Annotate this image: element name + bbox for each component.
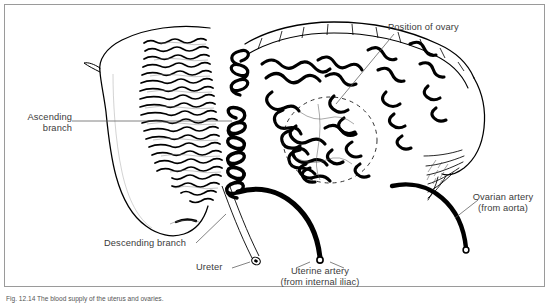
figure-frame bbox=[4, 4, 545, 287]
label-uterine-artery-line1: Uterine artery bbox=[258, 266, 382, 277]
label-position-of-ovary-line1: Position of ovary bbox=[388, 22, 459, 33]
label-ascending-branch-line1: Ascending bbox=[10, 112, 72, 123]
label-ascending-branch-line2: branch bbox=[10, 123, 72, 134]
figure-caption: Fig. 12.14 The blood supply of the uteru… bbox=[6, 295, 426, 303]
label-ureter-line1: Ureter bbox=[196, 262, 223, 273]
label-ascending-branch: Ascending branch bbox=[10, 112, 72, 135]
label-ovarian-artery: Ovarian artery (from aorta) bbox=[460, 192, 546, 215]
label-uterine-artery: Uterine artery (from internal iliac) bbox=[258, 266, 382, 289]
label-uterine-artery-line2: (from internal iliac) bbox=[258, 277, 382, 288]
label-position-of-ovary: Position of ovary bbox=[388, 22, 459, 33]
label-ovarian-artery-line2: (from aorta) bbox=[460, 203, 546, 214]
label-descending-branch: Descending branch bbox=[104, 238, 186, 249]
label-ureter: Ureter bbox=[196, 262, 223, 273]
figure-root: Ascending branch Descending branch Urete… bbox=[0, 0, 550, 304]
label-ovarian-artery-line1: Ovarian artery bbox=[460, 192, 546, 203]
label-descending-branch-line1: Descending branch bbox=[104, 238, 186, 249]
